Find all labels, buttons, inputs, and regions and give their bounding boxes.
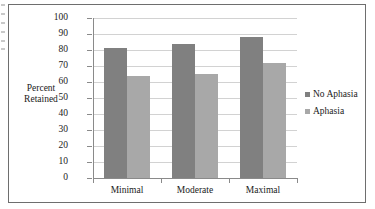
bar (172, 44, 195, 178)
y-axis-tick (87, 178, 92, 179)
x-axis-tick (161, 178, 162, 183)
y-axis-tick (87, 146, 92, 147)
legend-swatch-icon (305, 92, 310, 97)
x-axis-tick (93, 178, 94, 183)
bar (195, 74, 218, 178)
y-axis-tick-label: 90 (44, 29, 68, 39)
legend-item: No Aphasia (305, 89, 367, 99)
plot-area (93, 18, 297, 178)
y-axis-tick-label: 50 (44, 93, 68, 103)
y-axis-tick-label: 0 (44, 173, 68, 183)
y-axis-tick (87, 82, 92, 83)
bar (104, 48, 127, 178)
x-axis-tick-label: Minimal (93, 185, 161, 196)
y-axis-tick-label: 40 (44, 109, 68, 119)
x-axis-tick-label: Maximal (229, 185, 297, 196)
y-axis-tick (87, 114, 92, 115)
legend-item: Aphasia (305, 106, 367, 116)
x-axis-tick (297, 178, 298, 183)
bar (240, 37, 263, 178)
y-axis-tick (87, 18, 92, 19)
x-axis-tick (229, 178, 230, 183)
y-axis-tick-label: 80 (44, 45, 68, 55)
y-axis-tick (87, 98, 92, 99)
y-axis-tick (87, 162, 92, 163)
legend-label: Aphasia (313, 106, 344, 116)
legend-label: No Aphasia (313, 89, 358, 99)
y-axis-tick (87, 34, 92, 35)
figure: Percent Retained 0102030405060708090100 … (0, 0, 375, 209)
y-axis-tick (87, 130, 92, 131)
y-axis-tick-label: 70 (44, 61, 68, 71)
x-axis-tick-label: Moderate (161, 185, 229, 196)
chart-frame: Percent Retained 0102030405060708090100 … (8, 4, 366, 203)
legend-swatch-icon (305, 109, 310, 114)
legend: No AphasiaAphasia (305, 89, 367, 123)
y-axis-tick-label: 10 (44, 157, 68, 167)
gridline (93, 178, 297, 179)
y-axis-tick (87, 66, 92, 67)
y-axis-tick-label: 100 (44, 13, 68, 23)
y-axis-tick (87, 50, 92, 51)
page-edge-artifacts (0, 4, 7, 50)
y-axis-tick-label: 60 (44, 77, 68, 87)
bar (127, 76, 150, 178)
chart-canvas: Percent Retained 0102030405060708090100 … (9, 5, 367, 204)
y-axis-tick-label: 30 (44, 125, 68, 135)
y-axis-tick-label: 20 (44, 141, 68, 151)
bar (263, 63, 286, 178)
